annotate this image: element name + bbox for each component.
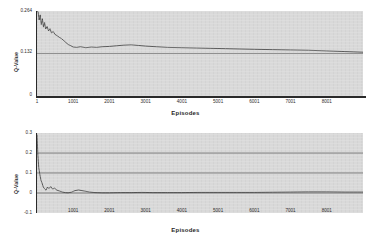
chart-a-xtick-5: 5001 <box>206 99 230 104</box>
chart-b-xtick-0: 1001 <box>61 208 85 213</box>
chart-a-xtick-1: 1001 <box>61 99 85 104</box>
chart-a-y-axis-title: Q-Value <box>13 52 19 72</box>
chart-b-canvas: Q-Value 0.3 0.2 0.1 0 -0.1 (b) Optimal V… <box>0 122 371 244</box>
chart-a-xtick-0: 1 <box>25 99 49 104</box>
chart-a-xtick-6: 6001 <box>242 99 266 104</box>
chart-a-line-series <box>37 11 363 52</box>
chart-a-ytick-0: 0.264 <box>6 8 32 13</box>
chart-b-ytick-2: 0.1 <box>6 170 32 175</box>
chart-a-xtick-7: 7001 <box>279 99 303 104</box>
chart-b-xtick-2: 3001 <box>134 208 158 213</box>
chart-b-ytick-1: 0.2 <box>6 150 32 155</box>
chart-b-xtick-6: 7001 <box>279 208 303 213</box>
chart-a-canvas: Q-Value 0.264 0.132 0 (a) Optimal Value … <box>0 0 371 122</box>
chart-b-x-axis-title: Episodes <box>0 227 371 233</box>
chart-b-ytick-4: -0.1 <box>4 210 32 215</box>
chart-a-xtick-4: 4001 <box>170 99 194 104</box>
chart-b-xtick-1: 2001 <box>97 208 121 213</box>
chart-b-xtick-7: 8001 <box>315 208 339 213</box>
chart-b-xtick-4: 5001 <box>206 208 230 213</box>
chart-a-xtick-2: 2001 <box>97 99 121 104</box>
chart-b-xtick-5: 6001 <box>242 208 266 213</box>
chart-a-xtick-8: 8001 <box>315 99 339 104</box>
chart-a-series-svg <box>37 11 363 96</box>
chart-b-y-axis-line <box>36 133 37 213</box>
chart-b-xtick-3: 4001 <box>170 208 194 213</box>
chart-a-xtick-3: 3001 <box>134 99 158 104</box>
chart-a-y-axis-line <box>36 11 37 97</box>
chart-a-ytick-1: 0.132 <box>6 49 32 54</box>
chart-b-plot-area <box>37 133 363 213</box>
chart-b-series-svg <box>37 133 363 213</box>
chart-panel-b: Q-Value 0.3 0.2 0.1 0 -0.1 (b) Optimal V… <box>0 122 371 244</box>
chart-b-ytick-0: 0.3 <box>6 130 32 135</box>
chart-a-x-axis-line <box>36 96 366 98</box>
chart-a-x-axis-title: Episodes <box>0 110 371 116</box>
chart-b-gridlines <box>37 153 363 193</box>
chart-a-plot-area <box>37 11 363 96</box>
chart-a-ytick-2: 0 <box>6 92 32 97</box>
chart-b-ytick-3: 0 <box>6 190 32 195</box>
chart-panel-a: Q-Value 0.264 0.132 0 (a) Optimal Value … <box>0 0 371 122</box>
chart-b-line-series <box>37 135 363 193</box>
